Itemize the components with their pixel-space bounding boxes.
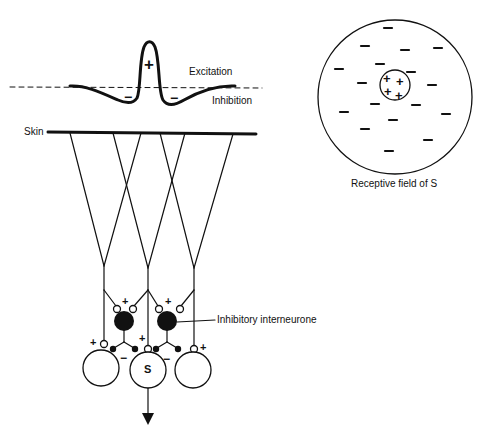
profile-center-plus: + — [144, 56, 154, 73]
sign-minus-right: − — [163, 353, 170, 365]
excitatory-terminals — [101, 306, 198, 353]
interneurone-leader — [177, 320, 215, 322]
output-cell-s-label: S — [144, 364, 151, 375]
sign-plus-left-cell: + — [90, 337, 96, 348]
profile-right-minus: − — [170, 91, 178, 105]
profile-left-minus: − — [124, 90, 132, 104]
skin-line — [48, 132, 256, 134]
sign-plus-right-cell: + — [200, 342, 206, 353]
skin-label: Skin — [24, 127, 43, 137]
afferent-fibres — [70, 133, 233, 290]
output-arrowhead — [142, 413, 154, 425]
interneurone-label: Inhibitory interneurone — [217, 315, 317, 325]
sign-plus-s-cell: + — [139, 333, 145, 344]
sign-plus-int1: + — [122, 296, 128, 307]
rf-plus-4: + — [395, 89, 403, 102]
inhibition-label: Inhibition — [212, 96, 252, 106]
sign-plus-int2: + — [165, 296, 171, 307]
rf-plus-2: + — [396, 75, 404, 88]
rf-plus-3: + — [384, 85, 392, 98]
surround-minus-marks — [335, 28, 450, 151]
interneurone-right — [157, 311, 177, 331]
diagram-canvas — [0, 0, 491, 440]
interneurone-left — [114, 311, 134, 331]
output-cell-right — [175, 352, 211, 388]
sign-minus-left: − — [120, 352, 127, 364]
output-cell-left — [83, 350, 119, 386]
excitation-label: Excitation — [189, 67, 232, 77]
receptive-field-caption: Receptive field of S — [351, 179, 437, 189]
